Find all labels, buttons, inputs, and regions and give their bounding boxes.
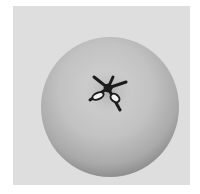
fruit-photo — [0, 0, 200, 194]
fruit-body — [41, 37, 179, 177]
